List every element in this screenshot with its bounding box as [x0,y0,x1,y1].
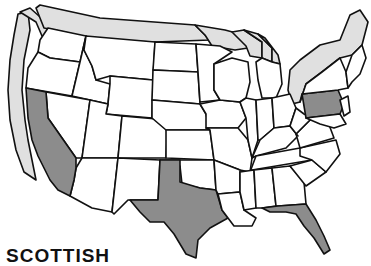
caption: SCOTTISH [6,246,110,265]
state-michigan [256,58,282,98]
state-arizona [70,158,118,212]
state-wisconsin [214,58,250,102]
state-iowa [200,100,246,128]
state-wyoming [106,76,153,118]
state-florida [262,204,330,254]
state-kansas [166,130,214,160]
state-south-dakota [152,70,200,104]
state-new-jersey [340,96,350,116]
state-montana [84,36,155,80]
state-north-dakota [153,42,198,72]
